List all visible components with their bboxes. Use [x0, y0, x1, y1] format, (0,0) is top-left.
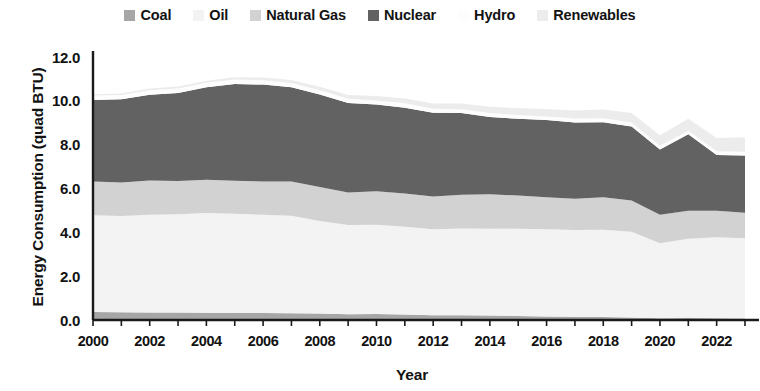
stacked-area-chart: CoalOilNatural GasNuclearHydroRenewables…	[0, 0, 760, 391]
area-series-group	[93, 77, 745, 320]
plot-area	[0, 0, 760, 391]
